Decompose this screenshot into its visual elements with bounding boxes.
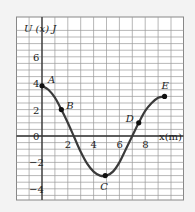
x-tick-label: 4	[91, 139, 97, 150]
y-tick-label: −4	[29, 184, 44, 195]
point-label-b: B	[65, 100, 73, 111]
y-tick-label: 6	[33, 52, 39, 63]
point-label-d: D	[125, 113, 134, 124]
point-c	[103, 173, 108, 178]
y-tick-label: 2	[33, 105, 39, 116]
point-label-a: A	[47, 74, 55, 85]
point-d	[136, 120, 141, 125]
point-b	[59, 107, 64, 112]
point-label-e: E	[161, 80, 170, 91]
y-axis-label: U (x) J	[24, 23, 57, 34]
y-tick-label: 0	[33, 131, 39, 142]
y-tick-label: −2	[29, 157, 44, 168]
x-tick-label: 8	[142, 139, 148, 150]
x-tick-label: 6	[116, 139, 122, 150]
potential-energy-chart: 24686420−2−4 ABCDE U (x) J x(m)	[0, 0, 195, 212]
x-tick-label: 2	[65, 139, 71, 150]
point-e	[162, 94, 167, 99]
y-tick-label: 4	[33, 78, 39, 89]
point-label-c: C	[100, 181, 108, 192]
x-axis-label: x(m)	[159, 131, 182, 142]
point-a	[39, 83, 44, 88]
